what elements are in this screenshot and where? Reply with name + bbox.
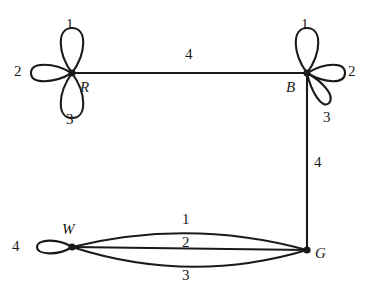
vertex-dot-group (68, 69, 310, 253)
loop-label-B-2: 2 (348, 64, 356, 79)
loop-label-W-4: 4 (12, 239, 20, 254)
loop-label-R-2: 2 (14, 64, 22, 79)
loop-R-2 (31, 65, 72, 82)
vertex-dot-R (68, 69, 75, 76)
vertex-label-R: R (80, 80, 89, 95)
loop-W-4 (37, 241, 72, 254)
vertex-dot-B (303, 69, 310, 76)
loop-B-1 (296, 28, 319, 73)
vertex-label-B: B (286, 80, 295, 95)
vertex-dot-G (303, 246, 310, 253)
graph-diagram-canvas: R B W G 1 2 3 1 2 3 4 4 4 1 2 3 (0, 0, 374, 303)
loop-R-1 (61, 28, 84, 73)
edge-label-R-B: 4 (185, 47, 193, 62)
vertex-label-G: G (315, 246, 326, 261)
loop-label-R-3: 3 (66, 112, 74, 127)
loop-label-R-1: 1 (66, 17, 74, 32)
loop-label-B-1: 1 (301, 17, 309, 32)
edge-W-G-2 (72, 247, 307, 250)
vertex-label-W: W (62, 222, 75, 237)
vertex-dot-W (68, 243, 75, 250)
loop-B-2 (307, 65, 345, 82)
edge-label-W-G-1: 1 (182, 212, 190, 227)
edge-label-W-G-3: 3 (182, 268, 190, 283)
edge-group (72, 73, 307, 267)
loop-label-B-3: 3 (323, 110, 331, 125)
edge-label-B-G: 4 (314, 155, 322, 170)
edge-label-W-G-2: 2 (182, 235, 190, 250)
